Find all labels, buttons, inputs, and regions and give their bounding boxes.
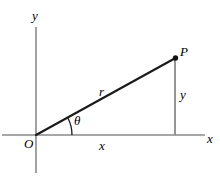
point-p-label: P — [180, 45, 188, 58]
radius-ray-line — [36, 58, 176, 135]
diagram-canvas — [0, 0, 220, 179]
origin-label: O — [24, 137, 33, 150]
angle-theta-label: θ — [74, 114, 80, 127]
vertical-leg-label: y — [180, 88, 186, 101]
polar-coordinate-diagram: y x O r θ x y P — [0, 0, 220, 179]
angle-arc — [68, 118, 72, 136]
x-axis-label: x — [207, 132, 213, 145]
radius-label: r — [99, 85, 104, 98]
horizontal-leg-label: x — [99, 139, 105, 152]
y-axis-label: y — [32, 9, 38, 22]
point-p-marker — [173, 55, 178, 60]
